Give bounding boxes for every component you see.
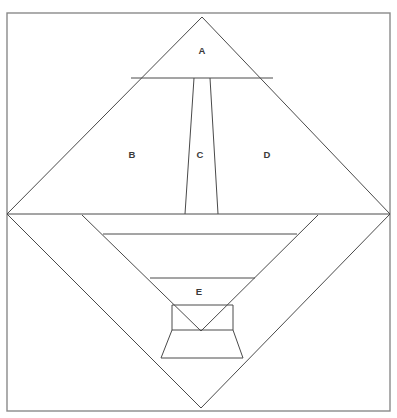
inner-diamond-right-edge: [201, 215, 318, 331]
e-lower-left: [161, 330, 172, 358]
geometric-figure: ABCDE: [0, 0, 397, 418]
diagram-canvas: ABCDE: [0, 0, 397, 418]
region-label-e: E: [196, 286, 202, 297]
inner-diamond-left-edge: [82, 215, 201, 331]
region-label-d: D: [264, 149, 271, 160]
outer-diamond: [7, 17, 390, 408]
region-label-a: A: [199, 45, 206, 56]
region-label-c: C: [197, 149, 204, 160]
e-lower-right: [233, 330, 243, 358]
region-label-b: B: [129, 149, 136, 160]
c-left-edge: [185, 78, 194, 214]
outer-border: [7, 13, 390, 411]
c-right-edge: [210, 78, 218, 214]
region-labels: ABCDE: [129, 45, 271, 297]
construction-lines: [7, 17, 390, 408]
